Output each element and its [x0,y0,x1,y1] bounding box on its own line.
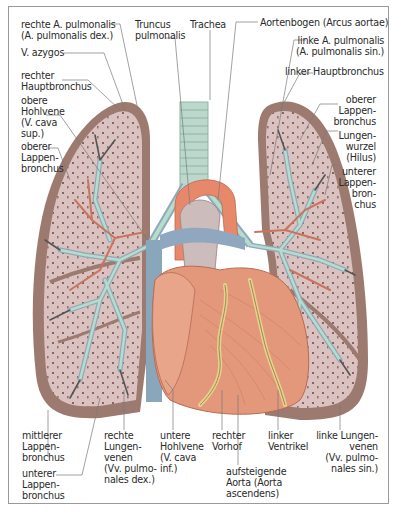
label-unterer-lappenbronchus-links: unterer Lappen- bron- chus [339,166,376,210]
label-oberer-lappenbronchus-rechts: oberer Lappen- bronchus [21,141,64,174]
heart-illustration [152,266,308,414]
label-oberer-lappenbronchus-links: oberer Lappen- bronchus [333,94,376,127]
label-trachea: Trachea [190,19,226,30]
label-obere-hohlvene: obere Hohlvene (V. cava sup.) [21,95,65,139]
label-aortenbogen: Aortenbogen (Arcus aortae) [260,17,388,28]
label-linke-a-pulmonalis: linke A. pulmonalis (A. pulmonalis sin.) [296,35,384,57]
label-mittlerer-lappenbronchus: mittlerer Lappen- bronchus [22,430,65,463]
label-linke-lungenvenen: linke Lungen- venen (Vv. pulmo- nales si… [316,430,378,474]
label-linker-ventrikel: linker Ventrikel [268,430,308,452]
label-untere-hohlvene: untere Hohlvene (V. cava inf.) [160,430,204,474]
label-rechter-vorhof: rechter Vorhof [212,430,245,452]
label-rechte-lungenvenen: rechte Lungen- venen (Vv. pulmo- nales d… [104,430,157,485]
label-v-azygos: V. azygos [21,47,64,58]
label-rechter-hauptbronchus: rechter Hauptbronchus [21,70,92,92]
label-linker-hauptbronchus: linker Hauptbronchus [285,66,384,77]
label-lungenwurzel: Lungen- wurzel (Hilus) [339,130,376,163]
label-rechte-a-pulmonalis: rechte A. pulmonalis (A. pulmonalis dex.… [21,19,116,41]
label-unterer-lappenbronchus-rechts: unterer Lappen- bronchus [22,468,65,501]
label-truncus-pulmonalis: Truncus pulmonalis [135,19,185,41]
label-aufsteigende-aorta: aufsteigende Aorta (Aorta ascendens) [226,466,286,499]
